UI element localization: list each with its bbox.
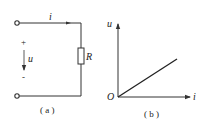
caption-a: ( a ) [40,106,55,115]
x-axis-label: i [193,92,196,102]
top-terminal-icon [15,21,19,25]
resistor-icon [78,48,84,64]
current-label: i [49,12,52,22]
resistor-label: R [86,52,92,62]
circuit-a [15,21,84,98]
origin-label: O [107,92,114,102]
y-axis-label: u [107,19,112,29]
caption-b: ( b ) [144,110,159,119]
current-arrow-icon [66,22,71,25]
linear-characteristic-line [118,59,177,97]
minus-sign: - [22,73,25,82]
bottom-terminal-icon [15,94,19,98]
voltage-label: u [28,54,33,64]
plus-sign: + [21,38,26,47]
graph-b [118,24,190,97]
